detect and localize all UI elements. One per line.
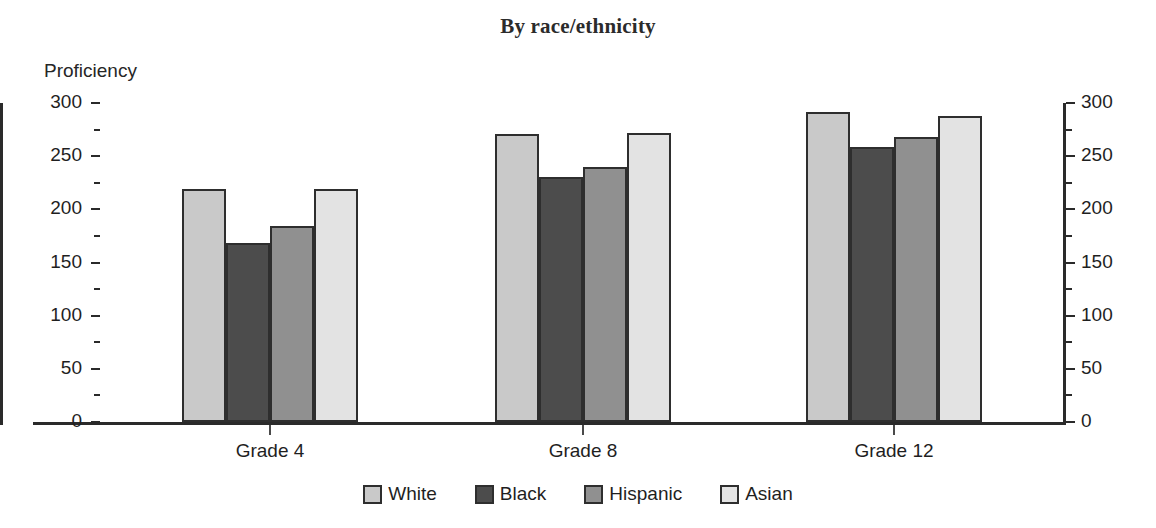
x-group-tick — [893, 425, 895, 435]
y-tick-label-left: 200 — [26, 197, 82, 219]
x-group-tick — [582, 425, 584, 435]
y-tick-label-right: 100 — [1081, 304, 1141, 326]
bar-hispanic-grade-8 — [583, 167, 627, 422]
y-axis-left-line — [0, 103, 3, 425]
y-tick-label-left: 250 — [26, 144, 82, 166]
legend-label: Hispanic — [609, 483, 682, 505]
y-tick-right — [1066, 421, 1075, 423]
y-minor-tick-left — [94, 394, 100, 396]
legend-label: Black — [500, 483, 546, 505]
legend: WhiteBlackHispanicAsian — [0, 483, 1156, 505]
y-axis-right-line — [1063, 103, 1066, 425]
y-tick-right — [1066, 315, 1075, 317]
y-tick-right — [1066, 262, 1075, 264]
y-tick-right — [1066, 368, 1075, 370]
bar-asian-grade-8 — [627, 133, 671, 422]
bar-black-grade-8 — [539, 177, 583, 422]
legend-swatch-icon — [475, 485, 494, 504]
y-minor-tick-right — [1066, 288, 1072, 290]
y-tick-label-right: 0 — [1081, 410, 1141, 432]
y-tick-label-right: 150 — [1081, 251, 1141, 273]
y-minor-tick-left — [94, 341, 100, 343]
y-tick-label-left: 150 — [26, 251, 82, 273]
y-tick-right — [1066, 208, 1075, 210]
bar-white-grade-4 — [182, 189, 226, 422]
y-tick-left — [91, 102, 100, 104]
legend-item-hispanic: Hispanic — [584, 483, 682, 505]
y-tick-left — [91, 315, 100, 317]
x-axis-label-grade-12: Grade 12 — [804, 440, 984, 462]
bar-hispanic-grade-12 — [894, 137, 938, 422]
y-minor-tick-right — [1066, 182, 1072, 184]
x-group-tick — [269, 425, 271, 435]
y-tick-label-left: 50 — [26, 357, 82, 379]
y-tick-right — [1066, 155, 1075, 157]
y-tick-label-right: 200 — [1081, 197, 1141, 219]
chart-page: By race/ethnicity Proficiency 0501001502… — [0, 0, 1156, 528]
bar-hispanic-grade-4 — [270, 226, 314, 422]
page-title: By race/ethnicity — [0, 14, 1156, 39]
legend-swatch-icon — [584, 485, 603, 504]
y-tick-label-right: 250 — [1081, 144, 1141, 166]
y-tick-left — [91, 421, 100, 423]
bar-white-grade-8 — [495, 134, 539, 422]
legend-item-asian: Asian — [720, 483, 793, 505]
y-minor-tick-left — [94, 235, 100, 237]
y-tick-label-left: 100 — [26, 304, 82, 326]
y-tick-label-left: 0 — [26, 410, 82, 432]
legend-item-white: White — [363, 483, 437, 505]
y-minor-tick-right — [1066, 235, 1072, 237]
legend-swatch-icon — [363, 485, 382, 504]
bar-black-grade-12 — [850, 147, 894, 422]
y-tick-left — [91, 208, 100, 210]
bar-white-grade-12 — [806, 112, 850, 422]
bar-asian-grade-4 — [314, 189, 358, 422]
y-minor-tick-left — [94, 129, 100, 131]
y-tick-label-right: 300 — [1081, 91, 1141, 113]
bar-black-grade-4 — [226, 243, 270, 422]
bar-asian-grade-12 — [938, 116, 982, 422]
y-tick-left — [91, 368, 100, 370]
legend-label: White — [388, 483, 437, 505]
y-tick-right — [1066, 102, 1075, 104]
y-minor-tick-right — [1066, 341, 1072, 343]
y-tick-label-right: 50 — [1081, 357, 1141, 379]
x-axis-label-grade-8: Grade 8 — [493, 440, 673, 462]
legend-swatch-icon — [720, 485, 739, 504]
legend-item-black: Black — [475, 483, 546, 505]
y-minor-tick-left — [94, 182, 100, 184]
x-axis-line — [33, 422, 1066, 425]
y-minor-tick-left — [94, 288, 100, 290]
y-tick-label-left: 300 — [26, 91, 82, 113]
y-axis-label: Proficiency — [44, 60, 137, 82]
y-minor-tick-right — [1066, 394, 1072, 396]
x-axis-label-grade-4: Grade 4 — [180, 440, 360, 462]
y-tick-left — [91, 155, 100, 157]
legend-label: Asian — [745, 483, 793, 505]
y-tick-left — [91, 262, 100, 264]
y-minor-tick-right — [1066, 129, 1072, 131]
